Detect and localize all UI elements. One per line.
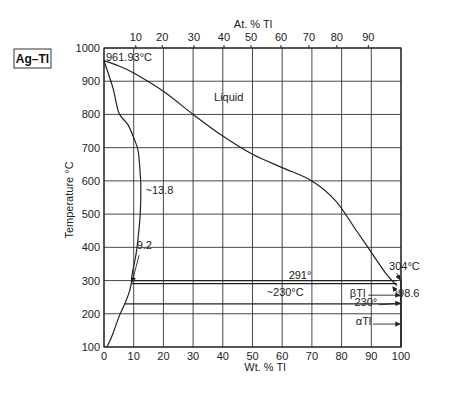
y-tick-label: 400 — [82, 241, 100, 253]
x2-tick-label: 60 — [275, 31, 287, 43]
x-tick-label: 40 — [217, 350, 229, 362]
y-tick-label: 100 — [82, 341, 100, 353]
x2-tick-label: 90 — [362, 31, 374, 43]
y-tick-label: 700 — [82, 142, 100, 154]
x-tick-label: 90 — [365, 350, 377, 362]
arrow-98-6 — [393, 287, 397, 293]
x2-tick-label: 30 — [188, 31, 200, 43]
x-tick-label: 70 — [306, 350, 318, 362]
x-tick-label: 0 — [101, 350, 107, 362]
y-tick-label: 800 — [82, 108, 100, 120]
x-axis-label: Wt. % Tl — [244, 361, 285, 373]
x-tick-label: 30 — [187, 350, 199, 362]
x2-tick-label: 10 — [130, 31, 142, 43]
y-tick-label: 500 — [82, 208, 100, 220]
temperature-label-291: 291° — [289, 269, 312, 281]
x2-tick-label: 50 — [245, 31, 257, 43]
temperature-label-230: ~230°C — [267, 286, 304, 298]
x-tick-label: 10 — [128, 350, 140, 362]
melting-point-tl-label: 304°C — [389, 260, 420, 272]
phase-boundary-solvus — [107, 284, 131, 347]
x-tick-label: 100 — [392, 350, 410, 362]
composition-label-9-2: 9.2 — [137, 239, 152, 251]
phase-label-liquid: Liquid — [214, 91, 243, 103]
phase-boundary-liquidus — [104, 61, 397, 286]
phase-label-alpha-tl: αTl — [356, 315, 372, 327]
y-tick-label: 1000 — [76, 42, 100, 54]
melting-point-ag-label: 961.93°C — [106, 51, 152, 63]
x-tick-label: 20 — [157, 350, 169, 362]
x-tick-label: 80 — [335, 350, 347, 362]
x2-tick-label: 40 — [218, 31, 230, 43]
phase-boundary-solidus — [104, 61, 141, 284]
y-tick-label: 900 — [82, 75, 100, 87]
x2-tick-label: 20 — [156, 31, 168, 43]
system-label: Ag–Tl — [16, 52, 49, 66]
y-tick-label: 300 — [82, 275, 100, 287]
phase-diagram: Ag–Tl01020304050607080901001002003004005… — [0, 0, 460, 396]
x2-tick-label: 80 — [331, 31, 343, 43]
x2-axis-label: At. % Tl — [234, 18, 272, 30]
y-tick-label: 600 — [82, 175, 100, 187]
y-tick-label: 200 — [82, 308, 100, 320]
y-axis-label: Temperature °C — [63, 161, 75, 238]
arrow-304 — [397, 273, 400, 279]
transformation-label-230: 230° — [354, 296, 377, 308]
x2-tick-label: 70 — [303, 31, 315, 43]
composition-label-13-8: ~13.8 — [146, 184, 174, 196]
